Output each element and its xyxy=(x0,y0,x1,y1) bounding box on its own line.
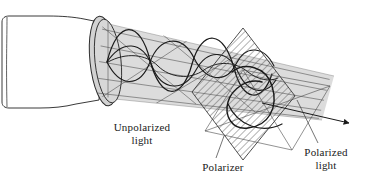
flashlight-body xyxy=(2,16,104,108)
label-polarized-line2: light xyxy=(289,159,363,172)
label-unpolarized-light: Unpolarized light xyxy=(100,121,184,146)
label-unpolarized-line1: Unpolarized xyxy=(100,121,184,134)
label-polarizer: Polarizer xyxy=(183,161,263,174)
label-polarized-light: Polarized light xyxy=(289,146,363,171)
label-unpolarized-line2: light xyxy=(100,134,184,147)
leader-line-to-polarizer-label xyxy=(216,136,224,158)
polarization-diagram: Unpolarized light Polarizer Polarized li… xyxy=(0,0,378,191)
label-polarizer-line1: Polarizer xyxy=(183,161,263,174)
label-polarized-line1: Polarized xyxy=(289,146,363,159)
